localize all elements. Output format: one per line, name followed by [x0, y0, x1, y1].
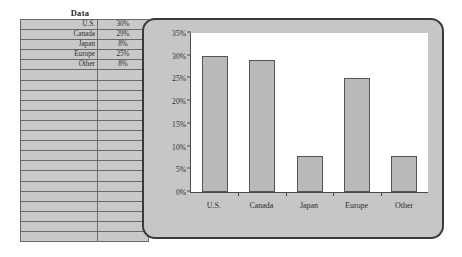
table-row[interactable]: Other8%: [21, 60, 149, 70]
table-cell-label[interactable]: [21, 70, 98, 80]
table-cell-label[interactable]: [21, 171, 98, 181]
y-tick-label: 30%: [172, 51, 186, 60]
table-cell-label[interactable]: [21, 161, 98, 171]
chart-plot-wrapper: 0%5%10%15%20%25%30%35% U.S.CanadaJapanEu…: [152, 28, 434, 229]
table-row-empty[interactable]: [21, 231, 149, 241]
x-tick-mark: [333, 192, 334, 196]
table-cell-label[interactable]: [21, 231, 98, 241]
x-axis-label: Europe: [333, 199, 381, 213]
table-row-empty[interactable]: [21, 90, 149, 100]
bar-slot: [238, 33, 285, 192]
x-tick-mark: [238, 192, 239, 196]
table-cell-value[interactable]: [98, 181, 149, 191]
bar-japan[interactable]: [297, 156, 323, 192]
table-cell-value[interactable]: [98, 211, 149, 221]
table-cell-value[interactable]: [98, 80, 149, 90]
table-row[interactable]: U.S.30%: [21, 20, 149, 30]
table-cell-label[interactable]: [21, 90, 98, 100]
table-cell-label[interactable]: U.S.: [21, 20, 98, 30]
chart-frame[interactable]: 0%5%10%15%20%25%30%35% U.S.CanadaJapanEu…: [142, 18, 444, 239]
data-table-panel: Data U.S.30%Canada29%Japan8%Europe25%Oth…: [20, 8, 140, 242]
table-cell-value[interactable]: 25%: [98, 50, 149, 60]
bar-other[interactable]: [391, 156, 417, 192]
chart-bars: [191, 33, 428, 192]
table-cell-label[interactable]: Japan: [21, 40, 98, 50]
table-cell-value[interactable]: [98, 201, 149, 211]
table-row-empty[interactable]: [21, 201, 149, 211]
table-cell-value[interactable]: [98, 161, 149, 171]
table-cell-value[interactable]: [98, 90, 149, 100]
x-axis-label: U.S.: [190, 199, 238, 213]
table-cell-value[interactable]: [98, 70, 149, 80]
x-axis-label: Canada: [238, 199, 286, 213]
table-cell-value[interactable]: [98, 191, 149, 201]
table-row[interactable]: Europe25%: [21, 50, 149, 60]
y-tick-label: 10%: [172, 142, 186, 151]
table-cell-label[interactable]: [21, 120, 98, 130]
table-cell-value[interactable]: 8%: [98, 40, 149, 50]
table-cell-label[interactable]: [21, 191, 98, 201]
table-row-empty[interactable]: [21, 211, 149, 221]
data-table[interactable]: U.S.30%Canada29%Japan8%Europe25%Other8%: [20, 19, 149, 242]
x-axis-label: Japan: [285, 199, 333, 213]
bar-slot: [191, 33, 238, 192]
y-tick-label: 25%: [172, 74, 186, 83]
table-cell-value[interactable]: [98, 231, 149, 241]
y-tick-label: 35%: [172, 29, 186, 38]
table-cell-label[interactable]: [21, 211, 98, 221]
table-cell-value[interactable]: [98, 100, 149, 110]
table-row-empty[interactable]: [21, 110, 149, 120]
data-table-body: U.S.30%Canada29%Japan8%Europe25%Other8%: [21, 20, 149, 242]
table-row-empty[interactable]: [21, 161, 149, 171]
table-cell-label[interactable]: [21, 141, 98, 151]
table-row-empty[interactable]: [21, 100, 149, 110]
table-cell-label[interactable]: [21, 80, 98, 90]
x-tick-mark: [381, 192, 382, 196]
table-row[interactable]: Canada29%: [21, 30, 149, 40]
table-cell-label[interactable]: [21, 110, 98, 120]
table-row-empty[interactable]: [21, 131, 149, 141]
table-cell-label[interactable]: Other: [21, 60, 98, 70]
bar-us[interactable]: [202, 56, 228, 192]
table-row-empty[interactable]: [21, 171, 149, 181]
table-cell-value[interactable]: 30%: [98, 20, 149, 30]
chart-x-axis-labels: U.S.CanadaJapanEuropeOther: [190, 199, 428, 213]
table-row-empty[interactable]: [21, 181, 149, 191]
table-row-empty[interactable]: [21, 141, 149, 151]
table-cell-value[interactable]: [98, 151, 149, 161]
table-row-empty[interactable]: [21, 70, 149, 80]
table-cell-value[interactable]: 8%: [98, 60, 149, 70]
table-cell-label[interactable]: Europe: [21, 50, 98, 60]
table-cell-label[interactable]: Canada: [21, 30, 98, 40]
bar-europe[interactable]: [344, 78, 370, 192]
y-tick-label: 15%: [172, 119, 186, 128]
chart-plot-area: 0%5%10%15%20%25%30%35%: [190, 33, 428, 193]
data-table-title: Data: [20, 8, 140, 19]
table-cell-label[interactable]: [21, 100, 98, 110]
bar-slot: [286, 33, 333, 192]
bar-slot: [333, 33, 380, 192]
y-tick-label: 5%: [176, 165, 186, 174]
table-cell-label[interactable]: [21, 181, 98, 191]
table-row-empty[interactable]: [21, 151, 149, 161]
table-cell-value[interactable]: [98, 131, 149, 141]
table-row-empty[interactable]: [21, 80, 149, 90]
table-cell-label[interactable]: [21, 131, 98, 141]
table-cell-label[interactable]: [21, 151, 98, 161]
x-tick-mark: [286, 192, 287, 196]
table-row[interactable]: Japan8%: [21, 40, 149, 50]
table-row-empty[interactable]: [21, 221, 149, 231]
table-cell-label[interactable]: [21, 201, 98, 211]
table-cell-value[interactable]: [98, 221, 149, 231]
table-cell-value[interactable]: [98, 141, 149, 151]
table-cell-value[interactable]: [98, 171, 149, 181]
table-cell-value[interactable]: [98, 120, 149, 130]
bar-canada[interactable]: [249, 60, 275, 192]
y-tick-label: 0%: [176, 188, 186, 197]
table-row-empty[interactable]: [21, 191, 149, 201]
table-cell-value[interactable]: 29%: [98, 30, 149, 40]
table-cell-value[interactable]: [98, 110, 149, 120]
table-row-empty[interactable]: [21, 120, 149, 130]
table-cell-label[interactable]: [21, 221, 98, 231]
x-axis-label: Other: [380, 199, 428, 213]
